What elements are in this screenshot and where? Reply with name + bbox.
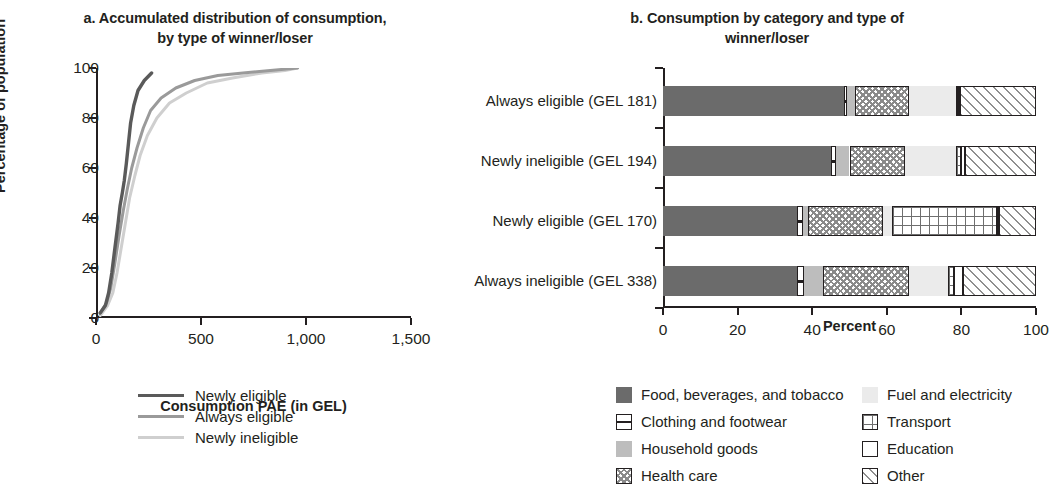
legend-label: Newly eligible	[195, 385, 287, 406]
bar-segment-house[interactable]	[847, 86, 855, 116]
bar-segment-food[interactable]	[663, 146, 831, 176]
bar-segment-food[interactable]	[663, 86, 844, 116]
legend-label: Fuel and electricity	[887, 386, 1012, 403]
panel-a-y-tick-label: 60	[39, 159, 99, 177]
bar-segment-other[interactable]	[965, 146, 1036, 176]
legend-item-edu[interactable]: Education	[862, 435, 1012, 462]
panel-a-x-tick-label: 1,000	[271, 330, 341, 348]
panel-a-series-svg	[96, 68, 411, 318]
legend-item-always-eligible: Always eligible	[138, 406, 298, 427]
panel-b-title-line1: b. Consumption by category and type of	[470, 8, 1064, 28]
bar-segment-trans[interactable]	[892, 206, 996, 236]
bar-segment-edu[interactable]	[954, 266, 963, 296]
panel-b-y-tick	[655, 307, 663, 309]
legend-label: Household goods	[641, 440, 758, 457]
panel-a-title-line1: a. Accumulated distribution of consumpti…	[0, 8, 470, 28]
panel-b-stacked-bar-chart: b. Consumption by category and type of w…	[470, 0, 1064, 486]
panel-b-x-axis-line	[663, 306, 1036, 308]
panel-b-row-label: Always ineligible (GEL 338)	[407, 272, 657, 289]
bar-segment-health[interactable]	[855, 86, 909, 116]
bar-segment-health[interactable]	[823, 266, 909, 296]
legend-label: Always eligible	[195, 406, 293, 427]
panel-b-x-tick	[1035, 308, 1037, 315]
bar-segment-food[interactable]	[663, 266, 797, 296]
legend-item-house[interactable]: Household goods	[616, 435, 844, 462]
legend-label: Education	[887, 440, 954, 457]
legend-label: Clothing and footwear	[641, 413, 787, 430]
panel-b-x-tick-label: 60	[857, 321, 917, 339]
legend-swatch-cloth-icon	[616, 414, 632, 430]
bar-segment-other[interactable]	[963, 266, 1036, 296]
panel-a-y-tick-label: 0	[39, 309, 99, 327]
panel-b-y-tick	[655, 67, 663, 69]
legend-item-trans[interactable]: Transport	[862, 408, 1012, 435]
panel-a-plot-area: Consumption PAE (in GEL) 020406080100050…	[96, 68, 411, 318]
bar-segment-house[interactable]	[836, 146, 849, 176]
panel-a-line-chart: a. Accumulated distribution of consumpti…	[0, 0, 470, 486]
legend-label: Food, beverages, and tobacco	[641, 386, 844, 403]
panel-a-series-line	[100, 68, 297, 316]
legend-item-other[interactable]: Other	[862, 462, 1012, 486]
panel-a-title-line2: by type of winner/loser	[0, 28, 470, 48]
panel-a-x-tick-label: 500	[166, 330, 236, 348]
legend-item-health[interactable]: Health care	[616, 462, 844, 486]
panel-b-x-tick-label: 0	[633, 321, 693, 339]
bar-segment-house[interactable]	[804, 266, 823, 296]
panel-b-y-tick	[655, 247, 663, 249]
legend-label: Transport	[887, 413, 951, 430]
panel-b-x-tick	[886, 308, 888, 315]
panel-b-title-line2: winner/loser	[470, 28, 1064, 48]
legend-item-food[interactable]: Food, beverages, and tobacco	[616, 381, 844, 408]
bar-segment-health[interactable]	[850, 146, 906, 176]
panel-b-title: b. Consumption by category and type of w…	[470, 8, 1064, 48]
panel-a-y-tick-label: 20	[39, 259, 99, 277]
legend-item-newly-ineligible: Newly ineligible	[138, 427, 298, 448]
bar-segment-fuel[interactable]	[883, 206, 892, 236]
legend-label: Other	[887, 467, 925, 484]
bar-segment-other[interactable]	[999, 206, 1036, 236]
bar-segment-health[interactable]	[808, 206, 883, 236]
panel-a-y-tick-label: 100	[39, 59, 99, 77]
legend-swatch-other-icon	[862, 468, 878, 484]
bar-segment-fuel[interactable]	[909, 266, 948, 296]
panel-a-y-tick-label: 80	[39, 109, 99, 127]
bar-segment-cloth[interactable]	[797, 266, 804, 296]
panel-a-title: a. Accumulated distribution of consumpti…	[0, 8, 470, 48]
panel-b-y-tick	[655, 187, 663, 189]
panel-b-legend-column-2: Fuel and electricityTransportEducationOt…	[862, 381, 1012, 486]
panel-a-y-tick-label: 40	[39, 209, 99, 227]
legend-label: Health care	[641, 467, 718, 484]
legend-swatch-fuel-icon	[862, 387, 878, 403]
panel-a-x-tick	[95, 318, 97, 325]
panel-a-x-tick	[305, 318, 307, 325]
panel-b-x-tick	[662, 308, 664, 315]
panel-a-y-axis-title: Percentage of population	[0, 19, 8, 193]
panel-a-legend: Newly eligible Always eligible Newly ine…	[138, 385, 298, 448]
legend-swatch-line-icon	[138, 415, 184, 418]
panel-b-x-tick	[960, 308, 962, 315]
stacked-bar-row[interactable]	[663, 266, 1036, 296]
stacked-bar-row[interactable]	[663, 206, 1036, 236]
panel-b-legend-column-1: Food, beverages, and tobaccoClothing and…	[616, 381, 844, 486]
panel-a-x-tick	[200, 318, 202, 325]
stacked-bar-row[interactable]	[663, 146, 1036, 176]
panel-b-x-tick-label: 100	[1006, 321, 1064, 339]
panel-b-y-tick	[655, 127, 663, 129]
legend-item-cloth[interactable]: Clothing and footwear	[616, 408, 844, 435]
panel-b-row-label: Newly ineligible (GEL 194)	[407, 152, 657, 169]
bar-segment-other[interactable]	[960, 86, 1036, 116]
stacked-bar-row[interactable]	[663, 86, 1036, 116]
panel-b-x-tick-label: 20	[708, 321, 768, 339]
legend-swatch-line-icon	[138, 436, 184, 439]
panel-b-x-tick-label: 40	[782, 321, 842, 339]
bar-segment-fuel[interactable]	[905, 146, 955, 176]
legend-item-fuel[interactable]: Fuel and electricity	[862, 381, 1012, 408]
panel-a-x-tick-label: 0	[61, 330, 131, 348]
panel-b-row-label: Always eligible (GEL 181)	[407, 92, 657, 109]
bar-segment-fuel[interactable]	[909, 86, 956, 116]
panel-a-x-tick	[410, 318, 412, 325]
bar-segment-food[interactable]	[663, 206, 797, 236]
legend-swatch-health-icon	[616, 468, 632, 484]
legend-swatch-line-icon	[138, 394, 184, 398]
panel-b-row-label: Newly eligible (GEL 170)	[407, 212, 657, 229]
